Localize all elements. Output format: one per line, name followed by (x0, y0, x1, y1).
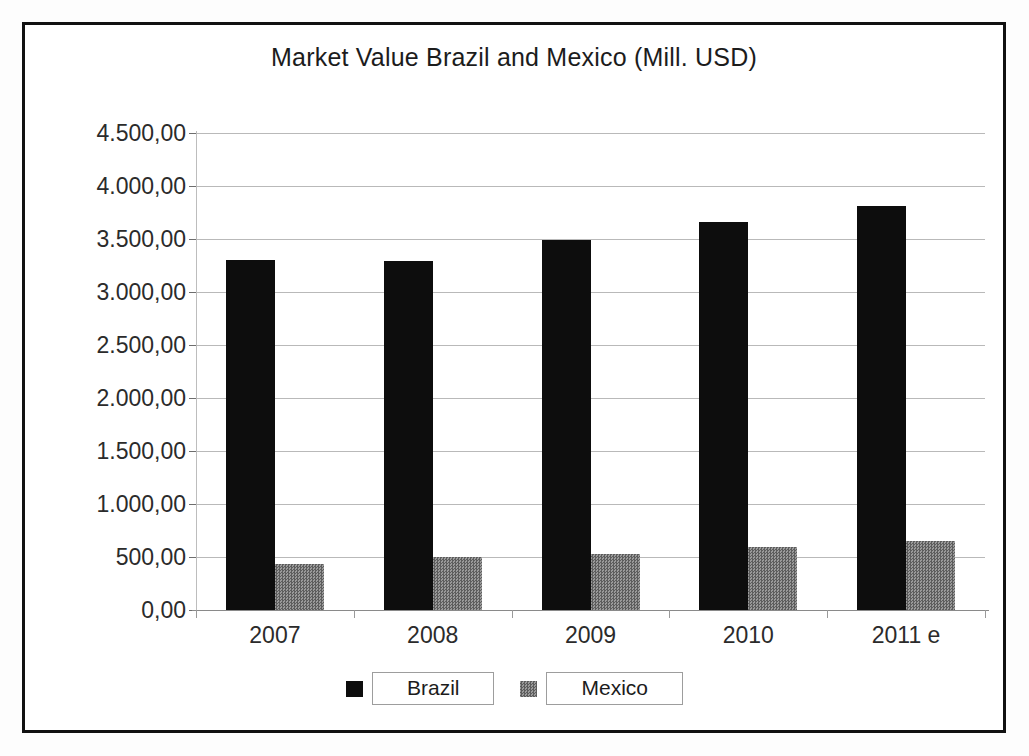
y-axis-tick (189, 345, 196, 346)
x-axis-tick-label: 2010 (723, 622, 774, 649)
y-axis-tick-label: 1.000,00 (96, 491, 186, 518)
x-axis-tick (827, 610, 828, 618)
y-axis-tick-label: 0,00 (141, 597, 186, 624)
x-axis-tick-label: 2008 (407, 622, 458, 649)
x-axis-tick-label: 2011 e (872, 622, 941, 649)
plot-area (196, 133, 985, 610)
y-axis-tick-label: 2.000,00 (96, 385, 186, 412)
y-axis-tick-label: 3.000,00 (96, 279, 186, 306)
y-axis-tick (189, 292, 196, 293)
chart-legend: BrazilMexico (0, 672, 1029, 705)
x-axis-tick (669, 610, 670, 618)
legend-label-mexico: Mexico (546, 672, 683, 705)
gridline (196, 133, 985, 134)
legend-label-brazil: Brazil (372, 672, 495, 705)
x-axis-tick-label: 2007 (249, 622, 300, 649)
bar-brazil-2011-e (857, 206, 906, 610)
x-axis-line (192, 610, 989, 611)
y-axis-tick (189, 186, 196, 187)
bar-brazil-2008 (384, 261, 433, 610)
y-axis-tick (189, 398, 196, 399)
chart-title: Market Value Brazil and Mexico (Mill. US… (25, 43, 1003, 72)
y-axis-tick (189, 504, 196, 505)
y-axis-tick (189, 239, 196, 240)
y-axis-tick-label: 4.500,00 (96, 120, 186, 147)
gridline (196, 186, 985, 187)
bar-mexico-2011-e (906, 541, 955, 610)
y-axis-tick-label: 2.500,00 (96, 332, 186, 359)
legend-item-mexico: Mexico (520, 672, 683, 705)
bar-mexico-2010 (748, 547, 797, 610)
bar-mexico-2007 (275, 564, 324, 610)
y-axis-tick-label: 500,00 (116, 544, 186, 571)
legend-swatch-mexico-icon (520, 681, 537, 697)
x-axis-tick (512, 610, 513, 618)
bar-brazil-2010 (699, 222, 748, 610)
x-axis-tick (985, 610, 986, 618)
y-axis-labels: 0,00500,001.000,001.500,002.000,002.500,… (40, 133, 186, 610)
x-axis-tick-label: 2009 (565, 622, 616, 649)
bar-brazil-2007 (226, 260, 275, 610)
bar-brazil-2009 (542, 240, 591, 610)
y-axis-tick (189, 133, 196, 134)
y-axis-tick-label: 3.500,00 (96, 226, 186, 253)
y-axis-tick (189, 451, 196, 452)
x-axis-tick (196, 610, 197, 618)
y-axis-tick-label: 1.500,00 (96, 438, 186, 465)
y-axis-tick-label: 4.000,00 (96, 173, 186, 200)
legend-item-brazil: Brazil (346, 672, 495, 705)
bar-mexico-2008 (433, 557, 482, 610)
legend-swatch-brazil-icon (346, 681, 363, 697)
x-axis-tick (354, 610, 355, 618)
scanned-page: Market Value Brazil and Mexico (Mill. US… (0, 0, 1029, 756)
bar-mexico-2009 (591, 554, 640, 610)
y-axis-tick (189, 557, 196, 558)
